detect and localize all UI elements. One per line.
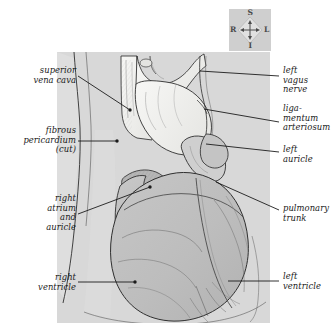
label-superior-vena-cava: superior vena cava <box>14 66 76 85</box>
label-right-ventricle: right ventricle <box>16 273 76 292</box>
label-ligamentum-arteriosum: liga- mentum arteriosum <box>283 104 332 133</box>
label-left-vagus-nerve: left vagus nerve <box>283 66 331 95</box>
leader-dot-right-ventricle <box>133 280 136 283</box>
compass-label-right: R <box>230 26 236 34</box>
leader-dot-right-atrium <box>148 185 151 188</box>
leader-dot-pericardium <box>115 139 118 142</box>
compass-label-superior: S <box>248 9 253 17</box>
label-fibrous-pericardium-cut: fibrous pericardium (cut) <box>6 126 76 155</box>
label-left-auricle: left auricle <box>283 145 331 164</box>
leader-dot-svc <box>128 108 131 111</box>
compass-label-inferior: I <box>249 42 253 50</box>
orientation-compass: S I R L <box>229 9 271 51</box>
label-right-atrium-and-auricle: right atrium and auricle <box>16 194 76 232</box>
vessel-stump-oval <box>140 59 152 67</box>
compass-label-left: L <box>264 26 269 34</box>
label-left-ventricle: left ventricle <box>283 272 331 291</box>
ventricular-mass <box>111 172 249 321</box>
label-pulmonary-trunk: pulmonary trunk <box>283 204 332 223</box>
